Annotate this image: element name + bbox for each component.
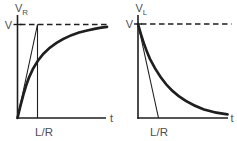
vr-rise-curve xyxy=(18,27,108,118)
rl-voltage-charts-svg: VR V t L/R VL V t L/R xyxy=(0,0,237,141)
rl-circuit-voltage-figure: VR V t L/R VL V t L/R xyxy=(0,0,237,141)
vr-time-constant-label: L/R xyxy=(35,126,53,138)
vl-xlabel: t xyxy=(231,112,234,124)
vl-time-constant-label: L/R xyxy=(150,126,168,138)
vl-start-value-label: V xyxy=(126,18,134,30)
vl-graph: VL V t L/R xyxy=(126,2,234,138)
vl-ylabel: VL xyxy=(136,2,148,17)
vr-xlabel: t xyxy=(110,112,113,124)
vr-graph: VR V t L/R xyxy=(5,2,113,138)
vr-ylabel: VR xyxy=(15,2,28,17)
vl-decay-curve xyxy=(138,24,228,114)
vr-asymptote-value-label: V xyxy=(5,19,13,31)
